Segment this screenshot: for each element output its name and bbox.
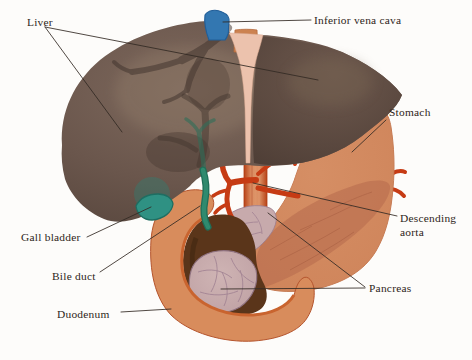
label-gall-bladder: Gall bladder [21,231,81,243]
label-bile-duct: Bile duct [52,270,96,282]
label-duodenum: Duodenum [57,308,110,320]
label-inferior-vena-cava: Inferior vena cava [314,14,401,26]
bile-duct-shape [203,170,208,227]
anatomy-illustration: Liver Inferior vena cava Stomach Descend… [0,0,472,360]
anatomy-figure: Liver Inferior vena cava Stomach Descend… [0,0,472,360]
label-pancreas: Pancreas [369,282,412,294]
label-liver: Liver [27,16,53,28]
label-descending-aorta-line2: aorta [400,226,424,238]
inferior-vena-cava-shape [205,10,229,40]
label-stomach: Stomach [389,106,431,118]
left-lobe-highlight [288,58,372,106]
label-descending-aorta-line1: Descending [400,212,456,224]
